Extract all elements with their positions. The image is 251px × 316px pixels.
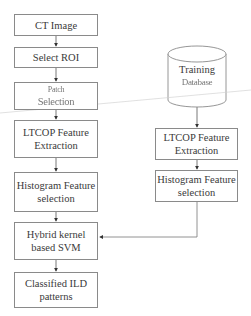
classified-label-1: Classified ILD — [25, 277, 87, 290]
histogram-left-box: Histogram Feature selection — [14, 172, 98, 212]
classified-label-2: patterns — [39, 290, 72, 303]
ltcop-left-label-1: LTCOP Feature — [23, 126, 89, 139]
hybrid-svm-label-1: Hybrid kernel — [27, 228, 86, 241]
ct-image-box: CT Image — [14, 14, 98, 36]
ltcop-right-box: LTCOP Feature Extraction — [155, 128, 238, 160]
ltcop-left-label-2: Extraction — [34, 139, 78, 152]
ltcop-right-label-1: LTCOP Feature — [163, 131, 229, 144]
patch-selection-box: Patch Selection — [14, 82, 98, 110]
select-roi-label: Select ROI — [33, 51, 79, 64]
patch-selection-label-2: Selection — [38, 95, 74, 108]
ltcop-right-label-2: Extraction — [175, 144, 219, 157]
select-roi-box: Select ROI — [14, 47, 98, 68]
hybrid-svm-label-2: based SVM — [31, 241, 80, 254]
hybrid-svm-box: Hybrid kernel based SVM — [14, 222, 98, 260]
database-label-1: Training — [168, 63, 226, 76]
patch-selection-label-1: Patch — [48, 85, 64, 95]
training-database-label: Training Database — [168, 63, 226, 89]
histogram-left-label-2: selection — [37, 192, 74, 205]
histogram-right-box: Histogram Feature selection — [155, 170, 238, 202]
ltcop-left-box: LTCOP Feature Extraction — [14, 120, 98, 158]
histogram-right-label-1: Histogram Feature — [157, 173, 235, 186]
histogram-left-label-1: Histogram Feature — [17, 179, 95, 192]
histogram-right-label-2: selection — [178, 186, 215, 199]
ct-image-label: CT Image — [35, 19, 77, 32]
database-label-2: Database — [168, 76, 226, 89]
classified-box: Classified ILD patterns — [14, 272, 98, 308]
